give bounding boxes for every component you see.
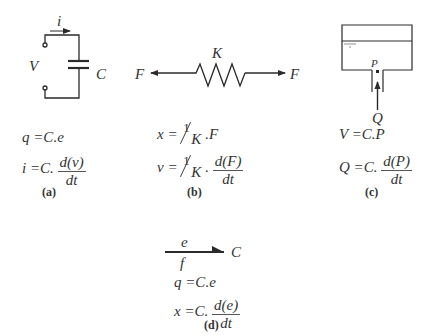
fraction-numerator: d(P)	[381, 154, 412, 171]
derivative-fraction: d(F) dt	[213, 154, 244, 187]
caption-b: (b)	[187, 185, 202, 200]
inverse-k-fraction: 1 K	[181, 158, 205, 180]
stiffness-label: K	[212, 45, 222, 62]
equation-a-current: i =C. d(v) dt	[22, 153, 86, 186]
eq-lhs: v	[157, 159, 164, 175]
fraction-numerator: d(F)	[213, 154, 244, 171]
c-element-label: C	[231, 244, 241, 261]
eq-rhs: =C	[33, 129, 53, 145]
caption-a: (a)	[42, 185, 56, 200]
equation-a-charge: q =C.e	[22, 130, 64, 145]
voltage-label: V	[29, 58, 38, 75]
fraction-denominator: K	[191, 132, 201, 147]
fraction-denominator: dt	[213, 171, 244, 187]
eq-rhs-suffix: .e	[53, 129, 63, 145]
current-label: i	[57, 13, 61, 30]
bond-graph-drawing	[165, 246, 224, 252]
eq-rhs: =C.	[354, 159, 378, 175]
equation-b-displacement: x = 1 K .F	[157, 125, 218, 147]
eq-lhs: Q	[339, 159, 350, 175]
eq-lhs: i	[22, 160, 26, 176]
eq-rhs-suffix: .F	[205, 126, 218, 142]
eq-rhs: =C.	[30, 160, 54, 176]
effort-label: e	[181, 234, 188, 251]
derivative-fraction: d(v) dt	[58, 155, 86, 188]
eq-lhs: V	[339, 126, 348, 142]
fraction-denominator: K	[191, 165, 201, 180]
eq-lhs: x	[174, 303, 181, 319]
equation-c-volume: V =C.P	[339, 127, 385, 142]
force-left-label: F	[135, 66, 144, 83]
fraction-numerator: d(e)	[212, 298, 240, 315]
equation-b-velocity: v = 1 K . d(F) dt	[157, 152, 243, 185]
force-right-label: F	[290, 66, 299, 83]
eq-rhs: =C.	[184, 303, 208, 319]
eq-lhs: q	[174, 274, 182, 290]
equation-d-charge: q =C.e	[174, 275, 216, 290]
capacitance-label: C	[96, 66, 106, 83]
terminal-top-icon	[43, 43, 47, 47]
capacitor-circuit	[43, 31, 89, 98]
half-arrow-icon	[212, 246, 224, 252]
eq-rhs-suffix: .e	[205, 274, 215, 290]
derivative-fraction: d(P) dt	[381, 154, 412, 187]
eq-dot: .	[205, 159, 209, 175]
fraction-numerator: d(v)	[58, 155, 86, 172]
eq-rhs: =C	[185, 274, 205, 290]
inverse-k-fraction: 1 K	[181, 125, 205, 147]
eq-lhs: x	[157, 126, 164, 142]
equation-c-flow: Q =C. d(P) dt	[339, 152, 412, 185]
terminal-bottom-icon	[43, 86, 47, 90]
flow-label: Q	[372, 110, 383, 127]
flow-f-label: f	[180, 255, 184, 272]
eq-equals: =	[167, 126, 177, 142]
pressure-label: P	[371, 57, 378, 69]
eq-lhs: q	[22, 129, 30, 145]
caption-c: (c)	[365, 185, 378, 200]
pressure-point-icon	[376, 70, 379, 73]
fraction-denominator: dt	[381, 171, 412, 187]
eq-equals: =	[167, 159, 177, 175]
caption-d: (d)	[204, 318, 219, 333]
spring-drawing	[151, 64, 285, 86]
eq-rhs: =C.P	[352, 126, 385, 142]
fraction-denominator: dt	[58, 172, 86, 188]
spring-zigzag-icon	[190, 64, 245, 86]
